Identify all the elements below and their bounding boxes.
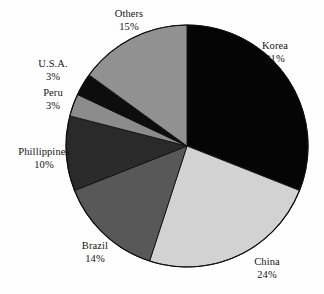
pie-label-phillippines: Phillippines 10% <box>2 146 86 171</box>
pie-label-china-value: 24% <box>232 269 302 282</box>
pie-label-usa: U.S.A. 3% <box>22 58 84 83</box>
pie-label-others-name: Others <box>96 8 162 21</box>
pie-label-phillippines-name: Phillippines <box>2 146 86 159</box>
pie-label-phillippines-value: 10% <box>2 159 86 172</box>
pie-label-peru: Peru 3% <box>22 87 84 112</box>
pie-label-others: Others 15% <box>96 8 162 33</box>
pie-label-brazil: Brazil 14% <box>60 240 130 265</box>
pie-label-korea: Korea 31% <box>240 40 310 65</box>
pie-label-peru-name: Peru <box>22 87 84 100</box>
pie-label-korea-value: 31% <box>240 53 310 66</box>
pie-label-brazil-value: 14% <box>60 253 130 266</box>
pie-label-china-name: China <box>232 256 302 269</box>
pie-label-china: China 24% <box>232 256 302 281</box>
pie-label-korea-name: Korea <box>240 40 310 53</box>
pie-label-usa-name: U.S.A. <box>22 58 84 71</box>
pie-label-usa-value: 3% <box>22 71 84 84</box>
pie-label-peru-value: 3% <box>22 100 84 113</box>
pie-label-others-value: 15% <box>96 21 162 34</box>
pie-chart-figure: Korea 31% China 24% Brazil 14% Phillippi… <box>0 0 324 294</box>
pie-label-brazil-name: Brazil <box>60 240 130 253</box>
